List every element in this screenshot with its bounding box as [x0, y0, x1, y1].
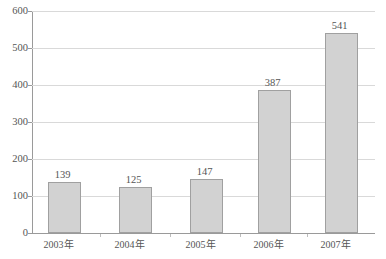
grid-line-200 — [32, 159, 375, 160]
bar-value-2007: 541 — [317, 21, 362, 32]
x-tick-label-2003: 2003年 — [31, 239, 86, 250]
bar-2003[interactable] — [48, 182, 81, 233]
bar-2006[interactable] — [258, 90, 291, 233]
x-tick-mark-1 — [100, 234, 101, 237]
bar-value-2003: 139 — [40, 170, 85, 181]
x-tick-mark-2 — [170, 234, 171, 237]
plot-area — [32, 11, 375, 233]
bar-2005[interactable] — [190, 179, 223, 233]
bar-value-2005: 147 — [182, 167, 227, 178]
x-tick-label-2004: 2004年 — [102, 239, 157, 250]
bar-2007[interactable] — [325, 33, 358, 233]
x-tick-label-2006: 2006年 — [241, 239, 296, 250]
grid-line-300 — [32, 122, 375, 123]
grid-line-600 — [32, 11, 375, 12]
y-tick-label-400: 400 — [12, 80, 28, 91]
bar-chart: 600 500 400 300 200 100 0 139 125 147 38… — [0, 0, 386, 259]
y-tick-label-600: 600 — [12, 6, 28, 17]
x-tick-label-2005: 2005年 — [173, 239, 228, 250]
bar-value-2006: 387 — [250, 78, 295, 89]
bar-2004[interactable] — [119, 187, 152, 233]
y-axis-labels: 600 500 400 300 200 100 0 — [0, 0, 28, 259]
y-tick-label-500: 500 — [12, 43, 28, 54]
x-tick-mark-3 — [240, 234, 241, 237]
bar-value-2004: 125 — [111, 175, 156, 186]
x-tick-mark-4 — [307, 234, 308, 237]
y-tick-label-100: 100 — [12, 191, 28, 202]
y-tick-label-200: 200 — [12, 154, 28, 165]
grid-line-500 — [32, 48, 375, 49]
x-tick-label-2007: 2007年 — [308, 239, 363, 250]
y-tick-label-300: 300 — [12, 117, 28, 128]
x-axis-line — [32, 233, 375, 234]
grid-line-400 — [32, 85, 375, 86]
